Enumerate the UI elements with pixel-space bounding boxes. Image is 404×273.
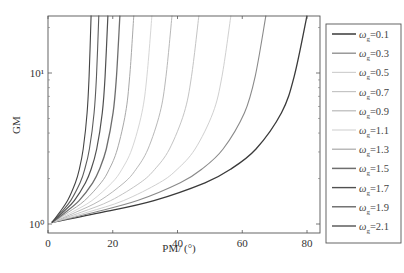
x-tick-label: 80 [302, 237, 314, 249]
x-tick-label: 20 [107, 237, 119, 249]
x-tick-label: 0 [45, 237, 51, 249]
plot-area [48, 16, 320, 233]
x-axis-label: PM/ (°) [162, 242, 196, 255]
y-tick-label: 10¹ [30, 67, 44, 79]
x-tick-label: 60 [237, 237, 249, 249]
y-axis-label: GM [10, 116, 22, 134]
chart: 020406080 10⁰10¹ PM/ (°) GM ωg=0.1ωg=0.3… [0, 0, 404, 273]
legend: ωg=0.1ωg=0.3ωg=0.5ωg=0.7ωg=0.9ωg=1.1ωg=1… [326, 24, 401, 243]
y-tick-label: 10⁰ [29, 218, 45, 230]
